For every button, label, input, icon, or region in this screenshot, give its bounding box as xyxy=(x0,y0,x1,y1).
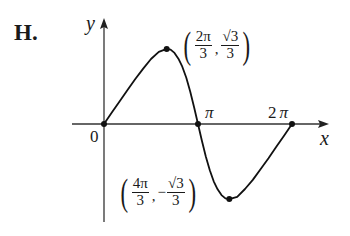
max-point-label: ( 2π 3 , √3 3 ) xyxy=(181,26,253,64)
min-x-numerator: 4π xyxy=(132,176,149,193)
right-paren: ) xyxy=(243,26,251,64)
max-x-denominator: 3 xyxy=(199,46,207,62)
two-pi-coef: 2 xyxy=(268,103,277,122)
right-paren: ) xyxy=(188,173,196,211)
two-pi-symbol: π xyxy=(280,103,289,122)
two-pi-tick-label: 2π xyxy=(268,103,288,123)
min-y-numerator: √3 xyxy=(167,176,185,193)
two-pi-point xyxy=(289,121,295,127)
min-x-denominator: 3 xyxy=(136,193,144,209)
pi-tick-label: π xyxy=(205,103,214,123)
max-y-denominator: 3 xyxy=(227,46,235,62)
origin-point xyxy=(101,121,107,127)
left-paren: ( xyxy=(121,173,129,211)
max-x-numerator: 2π xyxy=(195,29,212,46)
min-y-denominator: 3 xyxy=(172,193,180,209)
min-point xyxy=(226,196,232,202)
max-x-fraction: 2π 3 xyxy=(195,29,212,62)
min-minus-sign: − xyxy=(157,184,165,201)
y-axis-label: y xyxy=(86,12,95,35)
max-separator: , xyxy=(215,41,219,64)
left-paren: ( xyxy=(184,26,192,64)
x-axis-label: x xyxy=(320,127,329,150)
max-point xyxy=(164,46,170,52)
origin-label: 0 xyxy=(90,127,99,147)
pi-point xyxy=(195,121,201,127)
max-y-fraction: √3 3 xyxy=(221,29,239,62)
min-y-fraction: √3 3 xyxy=(167,176,185,209)
min-point-label: ( 4π 3 , − √3 3 ) xyxy=(118,173,198,211)
min-separator: , xyxy=(152,188,156,211)
max-y-numerator: √3 xyxy=(221,29,239,46)
min-x-fraction: 4π 3 xyxy=(132,176,149,209)
